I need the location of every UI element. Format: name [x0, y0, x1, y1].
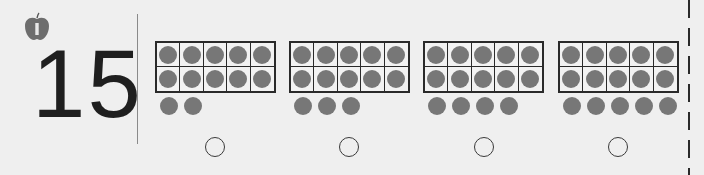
ten-frame [155, 41, 276, 93]
target-number: 15 [32, 36, 143, 132]
frame-cell [338, 43, 361, 67]
counter-dot [206, 46, 224, 64]
counter-dot [159, 46, 177, 64]
frame-cell [583, 43, 606, 67]
cut-line [688, 0, 690, 175]
extra-dots [155, 97, 276, 115]
divider [137, 14, 138, 144]
frame-cell [448, 67, 471, 91]
frame-cell [448, 43, 471, 67]
counter-dot [160, 97, 178, 115]
frame-cell [495, 67, 518, 91]
counter-dot [474, 46, 492, 64]
frame-cell [361, 67, 384, 91]
extra-dots [289, 97, 410, 115]
counter-dot [632, 70, 650, 88]
counter-dot [497, 70, 515, 88]
counter-dot [427, 46, 445, 64]
counter-dot [183, 46, 201, 64]
counter-dot [363, 46, 381, 64]
frame-cell [180, 67, 203, 91]
frame-cell [385, 43, 408, 67]
frame-cell [560, 67, 583, 91]
counter-dot [253, 46, 271, 64]
counter-dot [294, 97, 312, 115]
counter-dot [521, 70, 539, 88]
counter-dot [562, 70, 580, 88]
ten-frame-group-2 [289, 41, 410, 115]
frame-cell [251, 43, 274, 67]
ten-frame [423, 41, 544, 93]
frame-cell [472, 67, 495, 91]
frame-cell [204, 67, 227, 91]
counter-dot [363, 70, 381, 88]
counter-dot [451, 46, 469, 64]
frame-cell [654, 43, 677, 67]
counter-dot [318, 97, 336, 115]
counter-dot [586, 46, 604, 64]
answer-bubble-3[interactable] [474, 137, 494, 157]
frame-cell [251, 67, 274, 91]
counter-dot [317, 70, 335, 88]
counter-dot [476, 97, 494, 115]
frame-cell [157, 67, 180, 91]
counter-dot [632, 46, 650, 64]
counter-dot [656, 70, 674, 88]
frame-cell [291, 43, 314, 67]
counter-dot [609, 46, 627, 64]
frame-cell [472, 43, 495, 67]
counter-dot [521, 46, 539, 64]
frame-cell [519, 67, 542, 91]
answer-bubble-2[interactable] [339, 137, 359, 157]
counter-dot [387, 70, 405, 88]
counter-dot [474, 70, 492, 88]
counter-dot [340, 70, 358, 88]
frame-cell [361, 43, 384, 67]
frame-cell [157, 43, 180, 67]
ten-frame-group-3 [423, 41, 544, 115]
frame-cell [519, 43, 542, 67]
frame-cell [425, 43, 448, 67]
counter-dot [563, 97, 581, 115]
frame-cell [227, 67, 250, 91]
ten-frame-group-4 [558, 41, 679, 115]
extra-dots [558, 97, 679, 115]
frame-cell [607, 43, 630, 67]
counter-dot [253, 70, 271, 88]
counter-dot [340, 46, 358, 64]
counter-dot [387, 46, 405, 64]
counter-dot [428, 97, 446, 115]
ten-frame-group-1 [155, 41, 276, 115]
frame-cell [630, 67, 653, 91]
counter-dot [611, 97, 629, 115]
counter-dot [229, 46, 247, 64]
frame-cell [583, 67, 606, 91]
frame-cell [204, 43, 227, 67]
counter-dot [183, 70, 201, 88]
counter-dot [656, 46, 674, 64]
counter-dot [293, 70, 311, 88]
frame-cell [630, 43, 653, 67]
counter-dot [497, 46, 515, 64]
frame-cell [291, 67, 314, 91]
answer-bubble-1[interactable] [205, 137, 225, 157]
counter-dot [500, 97, 518, 115]
counter-dot [159, 70, 177, 88]
counter-dot [635, 97, 653, 115]
frame-cell [314, 43, 337, 67]
counter-dot [659, 97, 677, 115]
counter-dot [451, 70, 469, 88]
counter-dot [452, 97, 470, 115]
ten-frame [289, 41, 410, 93]
frame-cell [560, 43, 583, 67]
ten-frame [558, 41, 679, 93]
counter-dot [427, 70, 445, 88]
answer-bubble-4[interactable] [608, 137, 628, 157]
counter-dot [562, 46, 580, 64]
frame-cell [607, 67, 630, 91]
counter-dot [609, 70, 627, 88]
frame-cell [495, 43, 518, 67]
frame-cell [385, 67, 408, 91]
frame-cell [654, 67, 677, 91]
counter-dot [206, 70, 224, 88]
